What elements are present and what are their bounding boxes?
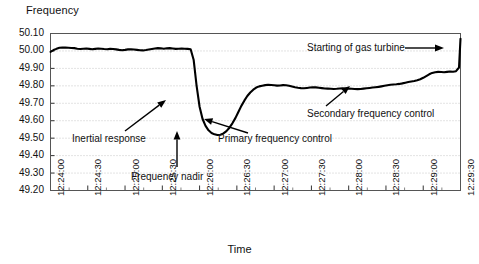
grid-lines [51,34,461,174]
annotation-primary-frequency-control: Primary frequency control [218,133,332,144]
x-tick-label: 12:28:30 [390,159,401,196]
y-tick-label: 49.90 [2,62,44,73]
annotation-starting-of-gas-turbine: Starting of gas turbine [307,42,405,53]
y-tick-label: 50.10 [2,27,44,38]
frequency-response-chart: Frequency Time 49.2049.3049.4049.5049.60… [0,0,479,264]
y-tick-label: 50.00 [2,44,44,55]
x-tick-label: 12:29:30 [465,159,476,196]
x-tick-label: 12:26:30 [241,159,252,196]
plot-canvas [0,0,479,264]
y-axis-title: Frequency [26,4,79,16]
y-tick-label: 49.80 [2,79,44,90]
y-tick-label: 49.50 [2,132,44,143]
annotation-secondary-frequency-control: Secondary frequency control [307,108,434,119]
y-tick-label: 49.20 [2,184,44,195]
annotation-inertial-response: Inertial response [72,133,146,144]
x-tick-label: 12:26:00 [204,159,215,196]
y-tick-label: 49.40 [2,149,44,160]
x-tick-label: 12:24:00 [55,159,66,196]
annotation-arrows [125,44,444,167]
y-tick-label: 49.60 [2,114,44,125]
annotation-frequency-nadir: Frequency nadir [131,171,203,182]
x-tick-label: 12:29:00 [428,159,439,196]
x-tick-label: 12:24:30 [92,159,103,196]
x-tick-label: 12:27:00 [279,159,290,196]
y-tick-label: 49.70 [2,97,44,108]
x-axis-title: Time [0,243,479,255]
x-tick-label: 12:27:30 [316,159,327,196]
x-tick-label: 12:28:00 [353,159,364,196]
y-tick-label: 49.30 [2,167,44,178]
